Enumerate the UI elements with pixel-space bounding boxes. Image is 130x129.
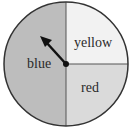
section-yellow [66, 2, 128, 64]
label-red: red [81, 80, 99, 95]
section-red [66, 64, 128, 126]
pivot-dot [63, 61, 69, 67]
label-blue: blue [27, 56, 51, 71]
spinner-diagram: blue yellow red [0, 0, 130, 129]
label-yellow: yellow [74, 35, 113, 50]
